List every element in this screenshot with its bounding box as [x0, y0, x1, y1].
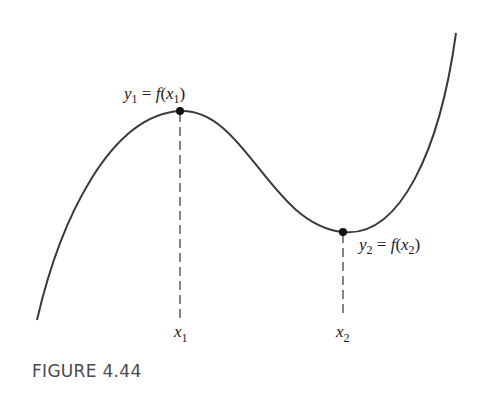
figure-caption: FIGURE 4.44: [32, 361, 142, 381]
local-max-point: [176, 107, 184, 115]
label-x2: x2: [335, 322, 350, 345]
local-min-point: [339, 228, 347, 236]
label-x1: x1: [173, 322, 188, 345]
label-max: y1 = f(x1): [122, 84, 185, 106]
figure-diagram: y1 = f(x1) y2 = f(x2) x1 x2: [0, 0, 488, 400]
label-min: y2 = f(x2): [357, 235, 420, 257]
function-curve: [37, 33, 456, 320]
